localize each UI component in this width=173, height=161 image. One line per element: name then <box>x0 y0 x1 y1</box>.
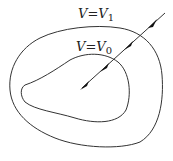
inner-contour-v0 <box>21 54 129 122</box>
label-v0-eq: = <box>85 39 96 54</box>
label-v0-var: V <box>76 39 85 54</box>
label-v0-rhs: V <box>96 39 105 54</box>
label-v1: V=V1 <box>78 7 114 23</box>
arrow-head-middle <box>124 41 133 50</box>
label-v0-sub: 0 <box>106 45 112 56</box>
equipotential-diagram <box>0 0 173 161</box>
arrow-head-inner-1 <box>100 63 109 72</box>
arrow-head-inner-2 <box>80 81 89 90</box>
label-v0: V=V0 <box>76 40 112 56</box>
label-v1-sub: 1 <box>108 12 114 23</box>
label-v1-var: V <box>78 6 87 21</box>
label-v1-rhs: V <box>98 6 107 21</box>
label-v1-eq: = <box>87 6 98 21</box>
arrow-head-outer <box>148 19 157 28</box>
